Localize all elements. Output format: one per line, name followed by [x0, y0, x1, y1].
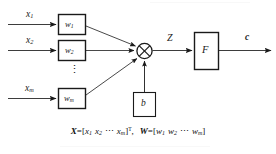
input-label-1: x1	[26, 10, 33, 20]
bias-label: b	[141, 99, 146, 109]
formula-w-symbol: W	[140, 126, 148, 136]
formula-bracket-close-2: ]	[202, 126, 205, 136]
input-label-m: xm	[25, 84, 34, 94]
weight-label-m: wm	[64, 94, 74, 104]
z-label: Z	[167, 33, 173, 43]
formula-w1-sub: 1	[162, 130, 165, 136]
vertical-ellipsis-icon: ⋮	[69, 64, 80, 75]
weight-m-to-sum-line	[86, 59, 137, 96]
formula-dots-2: ⋯	[180, 126, 189, 136]
weight-1-to-sum-line	[86, 26, 136, 46]
summation-node	[137, 43, 152, 58]
neuron-diagram: x1 x2 xm w1 w2 wm ⋮ Z F b c X=[x1x2⋯xm]T…	[0, 0, 276, 154]
activation-label: F	[202, 45, 208, 56]
weight-label-1: w1	[65, 20, 73, 30]
formula-x1-sub: 1	[89, 130, 92, 136]
input-label-2: x2	[26, 36, 33, 46]
formula-w2-sub: 2	[174, 130, 177, 136]
output-label: c	[245, 33, 249, 43]
vector-definition-formula: X=[x1x2⋯xm]T,W=[w1w2⋯wm]	[0, 126, 276, 136]
formula-dots-1: ⋯	[105, 126, 114, 136]
formula-x2-sub: 2	[99, 130, 102, 136]
formula-separator: ,	[132, 126, 134, 136]
weight-label-2: w2	[65, 46, 73, 56]
